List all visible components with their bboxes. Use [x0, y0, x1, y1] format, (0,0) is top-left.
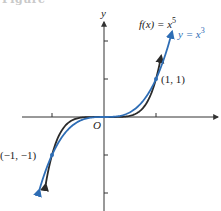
- label-x5: f(x) = x5: [139, 16, 176, 31]
- y-axis-label: y: [100, 7, 106, 19]
- point-label-1-1: (1, 1): [161, 73, 185, 86]
- point-label-neg1-neg1: (−1, −1): [0, 149, 37, 162]
- point-neg1-neg1: [50, 153, 54, 157]
- curve-x5: [46, 56, 161, 184]
- function-graph: y O (1, 1) (−1, −1) f(x) = x5 y = x3: [0, 0, 221, 211]
- label-x3: y = x3: [177, 26, 205, 40]
- point-1-1: [154, 77, 158, 81]
- curve-x3: [40, 32, 173, 190]
- origin-label: O: [93, 119, 101, 131]
